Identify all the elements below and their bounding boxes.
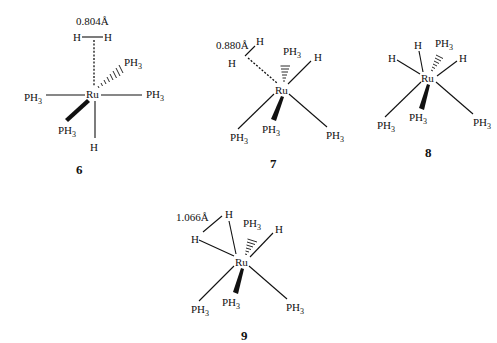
ligand-ph3: PH3 [286,301,304,316]
ligand-ph3: PH3 [326,129,344,144]
atom-h: H [414,39,422,51]
bond [199,240,234,256]
bond [437,61,457,76]
wedge-bond [271,96,284,121]
distance-label-9: 1.066Å [176,211,209,223]
ligand-ph3: PH3 [191,303,209,318]
structure-6: 0.804Å H H PH3 PH3 Ru PH3 PH3 H 6 [24,15,164,177]
wedge-bond [233,268,244,294]
structure-9: 1.066Å H H PH3 H Ru PH3 PH3 PH3 9 [176,208,304,343]
wedge-bond [419,84,430,110]
atom-h: H [228,57,236,69]
distance-label-6: 0.804Å [76,15,109,27]
hashed-bond [431,55,443,71]
compound-number-8: 8 [425,145,432,160]
metal-ru: Ru [235,256,248,268]
atom-h: H [256,35,264,47]
bond [229,221,236,254]
ligand-ph3: PH3 [222,296,240,311]
atom-h: H [73,31,81,43]
metal-ru: Ru [421,72,434,84]
compound-number-7: 7 [270,156,277,171]
ligand-ph3: PH3 [262,123,280,138]
hashed-bond [98,65,123,88]
atom-h: H [275,223,283,235]
bond [436,82,473,114]
ligand-ph3: PH3 [473,116,491,131]
bond [289,94,327,127]
wedge-bond [65,99,90,122]
ligand-ph3: PH3 [409,111,427,126]
bond [288,61,311,84]
ligand-ph3: PH3 [58,124,76,139]
atom-h: H [459,52,467,64]
structures-diagram: 0.804Å H H PH3 PH3 Ru PH3 PH3 H 6 0.880Å [0,0,497,343]
compound-number-6: 6 [76,162,83,177]
ligand-ph3: PH3 [146,88,164,103]
distance-label-7: 0.880Å [216,39,249,51]
structure-8: H PH3 H H Ru PH3 PH3 PH3 8 [377,37,491,160]
ligand-ph3: PH3 [243,217,261,232]
bond [419,51,423,72]
atom-h: H [314,51,322,63]
atom-h: H [225,208,233,220]
ligand-ph3: PH3 [24,91,42,106]
atom-h: H [104,31,112,43]
ligand-ph3: PH3 [124,56,142,71]
hashed-bond [281,66,291,81]
bond [249,266,287,299]
ligand-ph3: PH3 [230,131,248,146]
bond [250,233,273,257]
ligand-ph3: PH3 [283,45,301,60]
metal-ru: Ru [275,84,288,96]
atom-h: H [90,141,98,153]
ligand-ph3: PH3 [435,37,453,52]
structure-7: 0.880Å H H PH3 H Ru PH3 PH3 PH3 7 [216,35,344,171]
dihydrogen-dashed-bond [248,58,277,83]
compound-number-9: 9 [241,328,248,343]
ligand-ph3: PH3 [377,119,395,134]
bond [397,60,420,74]
atom-h: H [191,233,199,245]
atom-h: H [388,52,396,64]
metal-ru: Ru [86,88,99,100]
